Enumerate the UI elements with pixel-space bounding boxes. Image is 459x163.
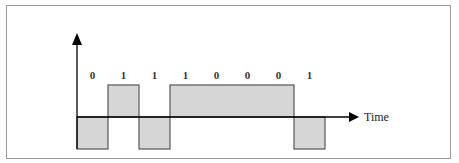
bit-label: 1 [307, 69, 313, 81]
bit-label: 0 [214, 69, 220, 81]
x-axis-arrow-icon [349, 112, 359, 122]
pulse-high [170, 85, 294, 117]
bit-label: 1 [152, 69, 158, 81]
pulse-low [77, 117, 108, 149]
pulse-high [108, 85, 139, 117]
signal-diagram: Time 01110001 [0, 0, 459, 163]
bit-label: 0 [245, 69, 251, 81]
pulse-low [139, 117, 170, 149]
y-axis-arrow-icon [72, 33, 82, 45]
bit-label: 0 [276, 69, 282, 81]
bit-label: 1 [121, 69, 127, 81]
pulse-low [294, 117, 325, 149]
bit-labels: 01110001 [90, 69, 313, 81]
bit-label: 0 [90, 69, 96, 81]
bit-label: 1 [183, 69, 189, 81]
x-axis-label: Time [364, 110, 389, 124]
